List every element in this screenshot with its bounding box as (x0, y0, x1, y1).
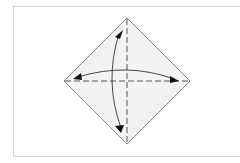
origami-diagram (0, 0, 240, 163)
